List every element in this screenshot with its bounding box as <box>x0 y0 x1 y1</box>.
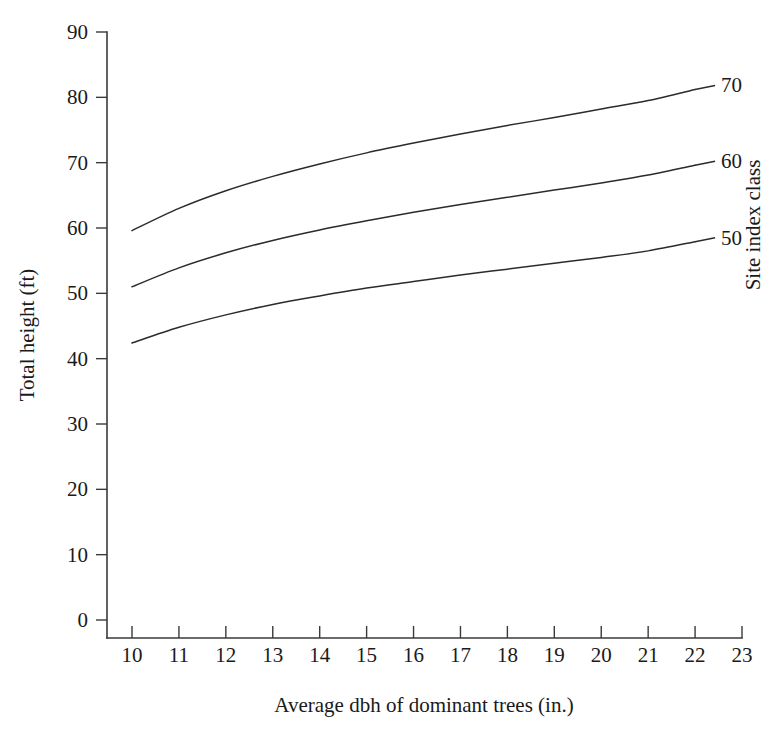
x-tick-label: 15 <box>356 643 377 667</box>
y-tick-label: 60 <box>67 216 88 240</box>
y-tick-label: 90 <box>67 20 88 44</box>
x-tick-label: 16 <box>403 643 424 667</box>
y-axis-ticks <box>96 32 107 620</box>
y-tick-label: 70 <box>67 151 88 175</box>
x-tick-label: 10 <box>122 643 143 667</box>
x-tick-label: 18 <box>497 643 518 667</box>
curve-label-site-index-70: 70 <box>721 73 742 97</box>
x-tick-label: 17 <box>450 643 471 667</box>
curve-label-site-index-50: 50 <box>721 226 742 250</box>
curve-site-index-50 <box>132 242 695 343</box>
curve-label-site-index-60: 60 <box>721 149 742 173</box>
leader-line-70 <box>695 85 715 89</box>
x-tick-label: 13 <box>262 643 283 667</box>
line-chart-canvas: 0102030405060708090 10111213141516171819… <box>0 0 782 734</box>
y-tick-label: 40 <box>67 347 88 371</box>
y-tick-label: 0 <box>78 608 89 632</box>
y-axis-title: Total height (ft) <box>15 269 39 402</box>
x-axis-ticks <box>132 626 742 638</box>
x-tick-label: 19 <box>544 643 565 667</box>
curve-site-index-70 <box>132 89 695 230</box>
x-axis-tick-labels: 1011121314151617181920212223 <box>122 643 753 667</box>
curve-site-index-60 <box>132 165 695 287</box>
y-tick-label: 30 <box>67 412 88 436</box>
y-axis-tick-labels: 0102030405060708090 <box>67 20 88 632</box>
y-tick-label: 20 <box>67 477 88 501</box>
series-curves <box>132 89 695 343</box>
y-tick-label: 50 <box>67 281 88 305</box>
x-tick-label: 12 <box>215 643 236 667</box>
legend-title: Site index class <box>741 160 765 291</box>
series-end-labels: 706050 <box>695 73 742 249</box>
x-tick-label: 20 <box>591 643 612 667</box>
leader-line-50 <box>695 238 715 242</box>
x-tick-label: 11 <box>169 643 189 667</box>
leader-line-60 <box>695 161 715 165</box>
x-tick-label: 14 <box>309 643 331 667</box>
x-axis-title: Average dbh of dominant trees (in.) <box>274 693 573 717</box>
y-tick-label: 10 <box>67 543 88 567</box>
y-tick-label: 80 <box>67 85 88 109</box>
x-tick-label: 21 <box>638 643 659 667</box>
x-tick-label: 22 <box>685 643 706 667</box>
chart-figure: 0102030405060708090 10111213141516171819… <box>0 0 782 734</box>
x-tick-label: 23 <box>732 643 753 667</box>
